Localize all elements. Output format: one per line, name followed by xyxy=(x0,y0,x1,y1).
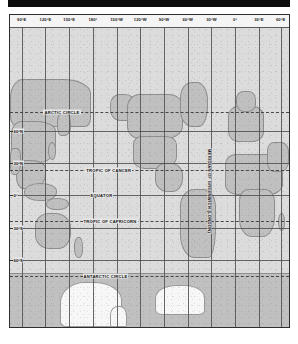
longitude-label: 150°E xyxy=(63,17,75,22)
reference-line-label: ANTARCTIC CIRCLE xyxy=(83,274,129,279)
meridian-gridline xyxy=(22,28,23,327)
latitude-label: 30°N xyxy=(13,161,24,166)
meridian-gridline xyxy=(69,28,70,327)
meridian-gridline xyxy=(281,28,282,327)
longitude-label: 0° xyxy=(233,17,237,22)
reference-line xyxy=(10,221,289,222)
land-antarctica-peninsula xyxy=(110,306,127,327)
meridian-gridline xyxy=(188,28,189,327)
reference-line-label: TROPIC OF CAPRICORN xyxy=(83,218,138,223)
meridian-gridline xyxy=(164,28,165,327)
land-greenland xyxy=(180,82,208,127)
meridian-gridline xyxy=(117,28,118,327)
land-new-guinea xyxy=(46,198,68,210)
land-southern-africa xyxy=(239,189,275,237)
latitude-label: 60°S xyxy=(13,257,23,262)
longitude-label: 180° xyxy=(88,17,97,22)
longitude-label: 30°W xyxy=(206,17,216,22)
header-bar xyxy=(8,0,290,7)
parallel-gridline xyxy=(10,131,289,132)
longitude-label: 120°E xyxy=(40,17,52,22)
meridian-gridline xyxy=(140,28,141,327)
land-middle-east xyxy=(267,142,289,172)
longitude-label: 150°W xyxy=(110,17,123,22)
land-japan xyxy=(48,142,56,160)
parallel-gridline xyxy=(10,260,289,261)
parallel-gridline xyxy=(10,163,289,164)
map-frame: 90°E120°E150°E180°150°W120°W90°W60°W30°W… xyxy=(9,14,290,328)
latitude-label: 30°S xyxy=(13,225,23,230)
world-map-page: 90°E120°E150°E180°150°W120°W90°W60°W30°W… xyxy=(0,0,298,344)
land-australia xyxy=(35,213,71,249)
meridian-gridline xyxy=(235,28,236,327)
longitude-label: 30°E xyxy=(254,17,263,22)
reference-line-label: TROPIC OF CANCER xyxy=(85,168,132,173)
latitude-label: 0° xyxy=(13,193,18,198)
parallel-gridline xyxy=(10,195,289,196)
longitude-label: 60°W xyxy=(182,17,192,22)
meridian-gridline xyxy=(45,28,46,327)
land-antarctic-shelf xyxy=(10,273,289,327)
reference-line xyxy=(10,276,289,277)
reference-line-label: EQUATOR xyxy=(90,193,114,198)
longitude-label: 60°E xyxy=(276,17,285,22)
meridian-of-greenwich-label: MERIDIAN OF GREENWICH (LONDON) xyxy=(207,148,212,234)
land-mexico-central-america xyxy=(155,163,183,193)
land-antarctica-east xyxy=(155,285,205,315)
longitude-label: 90°E xyxy=(17,17,26,22)
reference-line-label: ARCTIC CIRCLE xyxy=(43,110,80,115)
land-new-zealand xyxy=(74,237,82,258)
map-plot-area[interactable]: 60°N30°N0°30°S60°S ARCTIC CIRCLETROPIC O… xyxy=(10,28,289,327)
longitude-label: 90°W xyxy=(159,17,169,22)
longitude-axis: 90°E120°E150°E180°150°W120°W90°W60°W30°W… xyxy=(10,15,289,28)
longitude-label: 120°W xyxy=(134,17,147,22)
reference-line xyxy=(10,170,289,171)
land-scandinavia xyxy=(236,91,256,112)
meridian-gridline xyxy=(259,28,260,327)
meridian-gridline xyxy=(93,28,94,327)
latitude-label: 60°N xyxy=(13,129,24,134)
parallel-gridline xyxy=(10,228,289,229)
